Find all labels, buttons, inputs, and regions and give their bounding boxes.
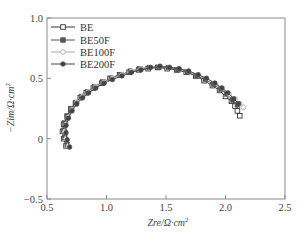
series-be (60, 65, 242, 148)
series-be100f (63, 64, 246, 148)
series-be200f (64, 64, 241, 149)
legend-item-be200f: BE200F (51, 59, 115, 70)
legend-label: BE (80, 22, 93, 33)
x-axis-label: Zre/Ω·cm2 (147, 216, 189, 228)
legend-item-be100f: BE100F (51, 47, 115, 58)
x-tick-label: 1.5 (159, 202, 172, 213)
legend-label: BE100F (80, 47, 115, 58)
x-tick-label: 2.5 (278, 202, 291, 213)
legend-item-be: BE (51, 22, 93, 33)
y-tick-label: 0.5 (30, 73, 43, 84)
data-series (60, 64, 245, 149)
y-axis-label: −Zim/Ω·cm2 (4, 83, 16, 133)
y-tick-label: 1.0 (30, 13, 43, 24)
x-axis-ticks: 0.51.01.52.02.5 (40, 195, 291, 213)
x-tick-label: 2.0 (219, 202, 232, 213)
legend-label: BE200F (80, 59, 115, 70)
legend-label: BE50F (80, 35, 110, 46)
legend-item-be50f: BE50F (51, 35, 110, 46)
legend: BEBE50FBE100FBE200F (51, 22, 115, 70)
x-tick-label: 1.0 (100, 202, 113, 213)
series-be50f (61, 65, 239, 147)
y-tick-label: 0 (38, 134, 43, 145)
y-tick-label: −0.5 (24, 194, 43, 205)
nyquist-chart: 0.51.01.52.02.5 −0.500.51.0 BEBE50FBE100… (0, 0, 308, 236)
